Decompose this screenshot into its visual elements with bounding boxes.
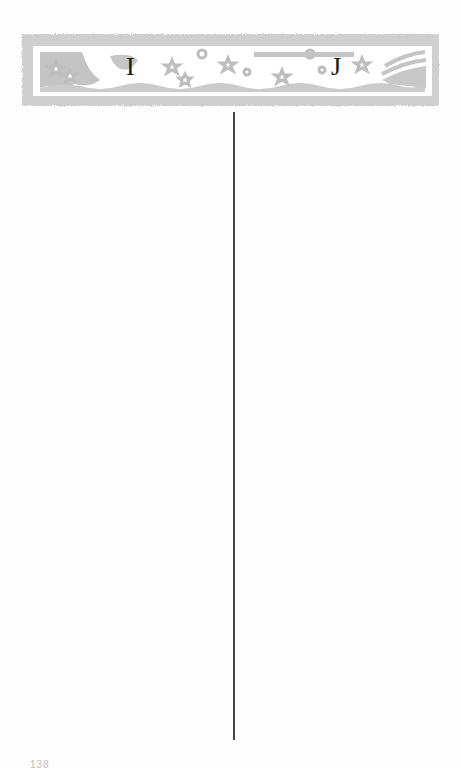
dictionary-page: I J 138 — [0, 0, 461, 768]
banner-frame-graphic — [20, 32, 441, 108]
section-letter-left: I — [126, 54, 135, 80]
page-number: 138 — [30, 759, 50, 768]
column-divider — [233, 112, 235, 740]
section-letter-right: J — [331, 54, 341, 80]
letter-banner: I J — [20, 32, 441, 108]
